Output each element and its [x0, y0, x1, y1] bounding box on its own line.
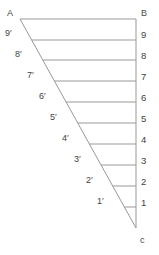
right-tick-label-9: 9	[141, 30, 146, 39]
diagonal-tick-label-7-prime: 7′	[27, 71, 34, 80]
right-tick-label-7: 7	[141, 72, 146, 81]
right-tick-label-3: 3	[141, 156, 146, 165]
vertex-label-a: A	[7, 9, 13, 18]
vertex-label-b: B	[141, 9, 147, 18]
right-tick-label-6: 6	[141, 93, 146, 102]
diagonal-tick-label-6-prime: 6′	[39, 92, 46, 101]
triangle-figure	[0, 0, 159, 255]
right-tick-label-5: 5	[141, 114, 146, 123]
right-tick-label-2: 2	[141, 177, 146, 186]
diagram-canvas: A B c 9 8 7 6 5 4 3 2 1 9′ 8′ 7′ 6′ 5′ 4…	[0, 0, 159, 255]
right-tick-label-4: 4	[141, 135, 146, 144]
diagonal-tick-label-8-prime: 8′	[15, 50, 22, 59]
diagonal-tick-label-3-prime: 3′	[74, 155, 81, 164]
diagonal-tick-label-5-prime: 5′	[50, 113, 57, 122]
right-tick-label-8: 8	[141, 51, 146, 60]
diagonal-tick-label-1-prime: 1′	[97, 197, 104, 206]
right-tick-label-1: 1	[141, 198, 146, 207]
diagonal-tick-label-2-prime: 2′	[86, 176, 93, 185]
vertex-label-c: c	[140, 236, 145, 245]
diagonal-tick-label-9-prime: 9′	[5, 29, 12, 38]
diagonal-tick-label-4-prime: 4′	[62, 134, 69, 143]
